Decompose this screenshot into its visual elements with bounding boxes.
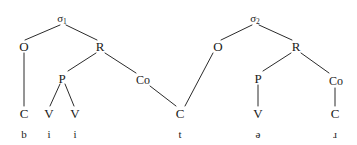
node-rhyme-2: R — [292, 40, 301, 53]
phoneme-3: i — [73, 129, 76, 140]
node-peak-2: P — [254, 72, 261, 85]
phoneme-5: ə — [256, 129, 261, 140]
node-segment-v-1: V — [44, 107, 53, 120]
node-onset-2: O — [213, 40, 222, 53]
node-coda-1: Co — [136, 74, 150, 86]
node-segment-v-2: V — [70, 107, 79, 120]
node-segment-c-2: C — [331, 107, 340, 120]
node-sigma-1: σ1 — [57, 13, 67, 24]
node-onset-1: O — [19, 40, 28, 53]
phoneme-6: ɹ — [333, 129, 337, 140]
phoneme-2: i — [47, 129, 50, 140]
phoneme-4: t — [178, 129, 181, 140]
node-segment-c-shared: C — [176, 107, 185, 120]
tree-node-labels: σ1 σ2 O R P Co O R P Co C V V C V C b i … — [0, 0, 357, 145]
node-rhyme-1: R — [96, 40, 105, 53]
node-sigma-2: σ2 — [250, 13, 260, 24]
node-coda-2: Co — [329, 75, 343, 87]
syllable-tree-diagram: σ1 σ2 O R P Co O R P Co C V V C V C b i … — [0, 0, 357, 145]
node-segment-c-1: C — [20, 107, 29, 120]
phoneme-1: b — [21, 129, 27, 140]
node-segment-v-3: V — [253, 107, 262, 120]
node-peak-1: P — [58, 72, 65, 85]
